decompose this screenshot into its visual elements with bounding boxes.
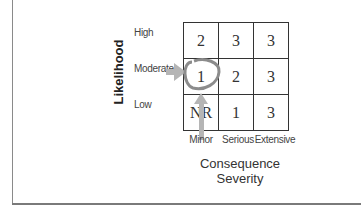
risk-matrix-grid: 2 3 3 1 2 3 NR 1 3 [183,22,289,131]
row-label-moderate: Moderate [134,63,174,74]
frame-left-border [12,0,13,204]
col-label-serious: Serious [220,134,256,145]
annotation-overlay [0,0,361,216]
matrix-cell: 2 [219,59,254,95]
col-label-extensive: Extensive [254,134,296,145]
matrix-cell: 3 [254,59,289,95]
matrix-cell-highlighted: 1 [184,59,219,95]
matrix-cell: 3 [219,23,254,59]
row-label-high: High [134,27,153,38]
matrix-cell: 3 [254,95,289,131]
matrix-row-high: 2 3 3 [184,23,289,59]
matrix-cell: 2 [184,23,219,59]
matrix-cell: 3 [254,23,289,59]
x-axis-title-line1: Consequence [196,156,284,171]
col-label-minor: Minor [184,134,218,145]
frame-bottom-border [12,203,361,205]
row-label-low: Low [134,99,151,110]
x-axis-title-line2: Severity [196,171,284,186]
matrix-row-moderate: 1 2 3 [184,59,289,95]
y-axis-title: Likelihood [111,40,126,105]
matrix-cell: NR [184,95,219,131]
matrix-row-low: NR 1 3 [184,95,289,131]
matrix-cell: 1 [219,95,254,131]
